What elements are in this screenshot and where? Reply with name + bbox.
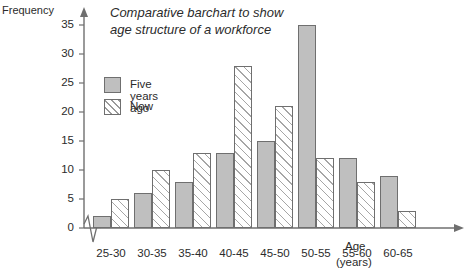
bar-25-30-now [111, 199, 129, 228]
x-tick-label: 30-35 [129, 247, 175, 259]
bar-45-50-five-years-ago [257, 141, 275, 228]
y-tick-label: 5 [50, 192, 74, 204]
bar-55-60-five-years-ago [339, 158, 357, 228]
bar-40-45-five-years-ago [216, 153, 234, 228]
x-tick-label: 35-40 [170, 247, 216, 259]
x-tick-label: 60-65 [375, 247, 421, 259]
bar-50-55-five-years-ago [298, 25, 316, 228]
x-tick-label: 25-30 [88, 247, 134, 259]
comparative-barchart: Frequency Age (years) Comparative barcha… [0, 0, 474, 274]
bar-55-60-now [357, 182, 375, 228]
y-tick-label: 35 [50, 18, 74, 30]
y-tick-label: 20 [50, 105, 74, 117]
bar-35-40-five-years-ago [175, 182, 193, 228]
bar-35-40-now [193, 153, 211, 228]
y-tick-label: 10 [50, 163, 74, 175]
bar-25-30-five-years-ago [93, 216, 111, 228]
y-tick-label: 15 [50, 134, 74, 146]
bar-50-55-now [316, 158, 334, 228]
x-tick-label: 45-50 [252, 247, 298, 259]
y-tick-label: 30 [50, 47, 74, 59]
bar-30-35-five-years-ago [134, 193, 152, 228]
bar-60-65-now [398, 211, 416, 228]
y-tick-label: 0 [50, 221, 74, 233]
bar-40-45-now [234, 66, 252, 228]
bar-30-35-now [152, 170, 170, 228]
bar-60-65-five-years-ago [380, 176, 398, 228]
x-tick-label: 50-55 [293, 247, 339, 259]
x-tick-label: 40-45 [211, 247, 257, 259]
bar-45-50-now [275, 106, 293, 228]
x-tick-label: 55-60 [334, 247, 380, 259]
y-tick-label: 25 [50, 76, 74, 88]
